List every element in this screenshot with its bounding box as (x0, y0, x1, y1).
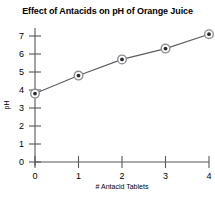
x-tick-label: 1 (76, 171, 81, 181)
y-tick-label: 6 (19, 49, 24, 59)
x-axis-ticks: 01234 (32, 156, 211, 181)
y-tick-label: 3 (19, 103, 24, 113)
y-tick-label: 4 (19, 85, 24, 95)
y-tick-label: 1 (19, 139, 24, 149)
x-tick-label: 2 (119, 171, 124, 181)
data-point-marker (31, 89, 40, 98)
chart-container: Effect of Antacids on pH of Orange Juice… (0, 0, 215, 203)
data-point-markers (31, 30, 214, 98)
x-tick-label: 4 (206, 171, 211, 181)
data-point-marker (205, 30, 214, 39)
y-tick-label: 7 (19, 31, 24, 41)
data-point-marker (74, 71, 83, 80)
x-tick-label: 0 (32, 171, 37, 181)
plot-area: 01234567 01234 # Antacid Tablets pH (0, 0, 215, 203)
y-axis-title: pH (3, 101, 11, 110)
y-tick-label: 0 (19, 157, 24, 167)
data-point-marker (161, 44, 170, 53)
y-axis-ticks: 01234567 (19, 31, 41, 167)
y-tick-label: 2 (19, 121, 24, 131)
data-point-marker (118, 55, 127, 64)
y-tick-label: 5 (19, 67, 24, 77)
x-axis-title: # Antacid Tablets (96, 183, 149, 190)
x-tick-label: 3 (163, 171, 168, 181)
